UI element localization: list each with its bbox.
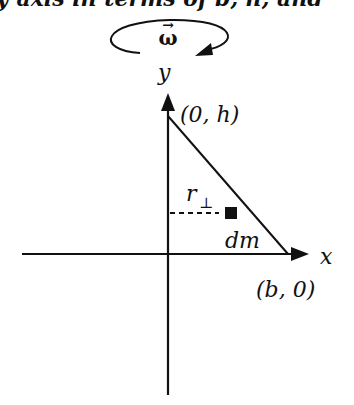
diagram: y axis in terms of b, h, and ω → y x (0,… <box>0 0 354 405</box>
mass-element-square <box>225 207 237 219</box>
vector-arrow: → <box>162 17 174 33</box>
base-label: (b, 0) <box>256 277 315 302</box>
header-text: y axis in terms of b, h, and <box>0 0 323 11</box>
apex-label: (0, h) <box>180 102 239 127</box>
distance-subscript: ⊥ <box>199 194 213 212</box>
distance-label: r <box>186 181 198 206</box>
x-axis-label: x <box>320 244 333 269</box>
x-axis-arrowhead-icon <box>291 247 309 261</box>
rotation-indicator: ω → <box>111 17 228 56</box>
y-axis-arrowhead-icon <box>161 93 175 111</box>
rotation-arrowhead-icon <box>195 43 213 56</box>
mass-label: dm <box>225 228 260 253</box>
y-axis-label: y <box>157 60 171 85</box>
